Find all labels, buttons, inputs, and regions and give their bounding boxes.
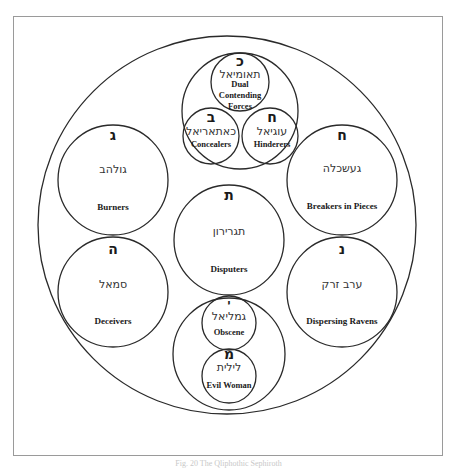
hinderers-hebrew: עוגיאל [257,125,287,138]
breakers-letter: ח [337,127,347,143]
obscene-letter: י [228,297,231,308]
hinderers-english: Hinderers [254,139,291,150]
figure-caption: Fig. 20 The Qliphothic Sephiroth [0,459,457,468]
concealers-hebrew: כאתאריאל [186,125,236,138]
obscene-english: Obscene [214,327,245,338]
dual-english-3: Forces [228,101,252,112]
concealers-english: Concealers [191,139,231,150]
burners-letter: ג [110,127,116,143]
dual-english-1: Dual [231,79,248,90]
ravens-english: Dispersing Ravens [306,316,377,326]
evil-woman-english: Evil Woman [207,380,252,391]
concealers-letter: ב [207,109,216,125]
burners-english: Burners [97,202,129,212]
disputers-letter: ת [224,187,234,203]
dual-english-2: Contending [219,90,262,101]
obscene-hebrew: גמליאל [212,310,246,323]
disputers-english: Disputers [210,264,247,274]
disputers-hebrew: תגרירון [213,225,246,238]
deceivers-english: Deceivers [95,316,132,326]
burners-hebrew: גולהב [99,163,126,176]
evil-woman-hebrew: לילית [217,361,242,374]
ravens-letter: נ [339,241,345,257]
hinderers-letter: ח [267,109,277,125]
breakers-hebrew: געשכלה [323,162,361,175]
deceivers-letter: ה [108,241,118,257]
breakers-english: Breakers in Pieces [307,201,377,211]
ravens-hebrew: ערב זרק [322,278,363,291]
deceivers-hebrew: סמאל [99,278,127,291]
